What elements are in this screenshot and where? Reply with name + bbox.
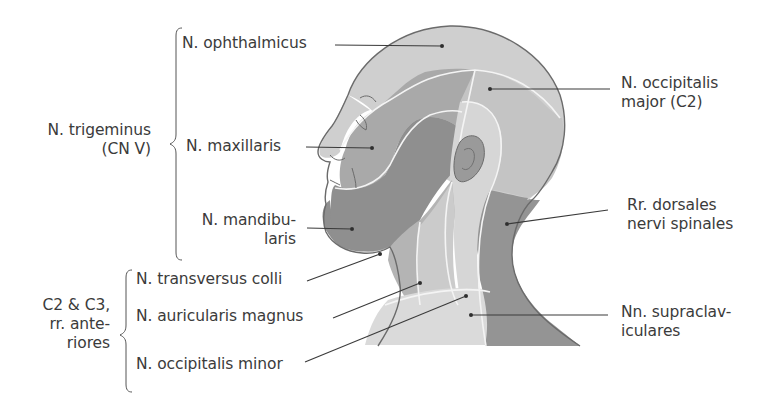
cervical-line2: rr. ante- [10,315,110,334]
label-n-maxillaris: N. maxillaris [186,137,281,156]
label-n-transversus-colli: N. transversus colli [136,270,282,289]
label-nn-supraclaviculares: Nn. supraclav- iculares [621,303,731,341]
bracket-trigeminus [170,28,182,260]
label-rr-dorsales: Rr. dorsales nervi spinales [627,196,733,234]
label-n-ophthalmicus: N. ophthalmicus [182,34,307,53]
cervical-line1: C2 & C3, [10,296,110,315]
group-label-cervical: C2 & C3, rr. ante- riores [10,296,110,353]
bracket-cervical [120,270,132,392]
label-n-occipitalis-major: N. occipitalis major (C2) [621,74,718,112]
group-label-trigeminus: N. trigeminus (CN V) [20,121,151,159]
leader-transversus-colli [307,254,380,281]
trigeminus-line1: N. trigeminus [20,121,151,140]
label-n-occipitalis-minor: N. occipitalis minor [136,355,283,374]
label-n-mandibularis: N. mandibu- laris [186,211,296,249]
cervical-line3: riores [10,334,110,353]
label-n-auricularis-magnus: N. auricularis magnus [136,307,303,326]
trigeminus-line2: (CN V) [20,140,151,159]
